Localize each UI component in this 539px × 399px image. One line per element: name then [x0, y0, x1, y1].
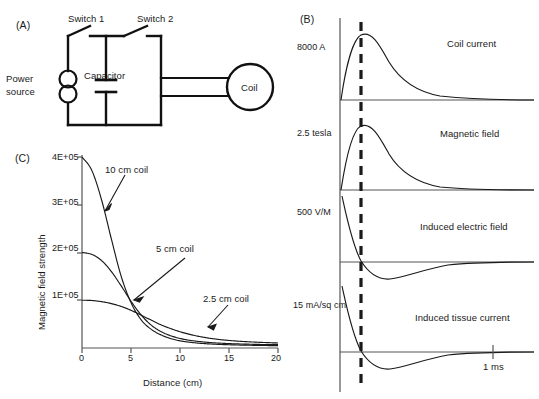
- power-source-label-line1: Power: [6, 73, 33, 84]
- chart-annotation-25cm-coil: 2.5 cm coil: [203, 293, 249, 304]
- switch-1-label: Switch 1: [68, 13, 104, 24]
- switch-1-blade: [68, 26, 90, 36]
- figure-root: (A) Switch 1 Switch 2 Power source Capac…: [0, 0, 539, 399]
- panel-c-chart: [77, 155, 278, 353]
- time-axis-label: 1 ms: [483, 361, 504, 372]
- chart-x-tick-label-15: 15: [224, 353, 234, 363]
- coil-label: Coil: [241, 82, 258, 93]
- chart-y-axis-title: Magnetic field strength: [36, 234, 47, 330]
- annotation-arrow-25cm-head: [208, 325, 216, 331]
- trace-scale-magnetic-field: 2.5 tesla: [297, 128, 331, 138]
- trace-scale-induced-tissue-current: 15 mA/sq cm: [293, 300, 346, 310]
- power-source-label-line2: source: [6, 86, 35, 97]
- curve-induced-tissue-current: [342, 286, 534, 369]
- switch-2-label: Switch 2: [137, 13, 173, 24]
- chart-x-tick-label-10: 10: [175, 353, 185, 363]
- capacitor-label: Capacitor: [84, 70, 125, 81]
- annotation-arrow-5cm-line: [134, 258, 185, 300]
- chart-x-tick-label-5: 5: [128, 353, 133, 363]
- chart-x-tick-label-20: 20: [271, 353, 281, 363]
- annotation-arrow-10cm-line: [105, 175, 125, 211]
- curve-coil-current: [341, 34, 534, 100]
- chart-annotation-10cm-coil: 10 cm coil: [105, 164, 148, 175]
- curve-induced-electric-field: [342, 196, 534, 279]
- chart-x-tick-label-0: 0: [79, 353, 84, 363]
- chart-x-axis-title: Distance (cm): [143, 377, 202, 388]
- panel-b-traces: [340, 18, 534, 392]
- curve-magnetic-field: [341, 125, 534, 190]
- chart-y-tick-label-2: 2E+05: [52, 243, 79, 253]
- annotation-arrow-10cm-head: [105, 204, 112, 212]
- chart-series-2-5cm-coil: [82, 300, 278, 343]
- chart-y-tick-label-4: 4E+05: [52, 152, 79, 162]
- trace-name-magnetic-field: Magnetic field: [440, 128, 499, 139]
- annotation-arrow-5cm-head: [134, 297, 143, 302]
- panel-a-label: (A): [16, 19, 30, 31]
- chart-annotation-5cm-coil: 5 cm coil: [156, 243, 194, 254]
- chart-y-tick-label-1: 1E+05: [52, 290, 79, 300]
- trace-name-induced-tissue-current: Induced tissue current: [415, 312, 510, 323]
- chart-y-tick-label-3: 3E+05: [52, 197, 79, 207]
- panel-c-label: (C): [15, 152, 30, 164]
- trace-name-induced-electric-field: Induced electric field: [420, 221, 508, 232]
- annotation-arrow-25cm-line: [208, 305, 228, 327]
- trace-scale-coil-current: 8000 A: [297, 42, 325, 52]
- panel-b-label: (B): [300, 13, 314, 25]
- trace-name-coil-current: Coil current: [447, 38, 496, 49]
- figure-graphics: [0, 0, 539, 399]
- power-source-circle-bottom: [60, 86, 77, 103]
- switch-2-blade: [124, 26, 147, 36]
- power-source-circle-top: [60, 71, 77, 88]
- trace-scale-induced-electric-field: 500 V/M: [297, 207, 331, 217]
